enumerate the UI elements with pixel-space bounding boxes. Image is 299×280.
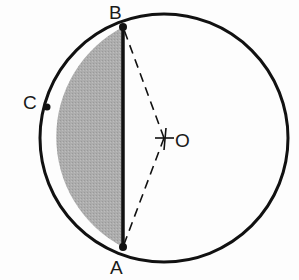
point-b [119, 23, 127, 31]
label-c: C [23, 92, 37, 113]
radius-ob [123, 27, 164, 138]
circle-segment-diagram: B A C O [0, 0, 299, 280]
point-c [44, 104, 51, 111]
radius-oa [123, 138, 164, 247]
label-a: A [110, 257, 123, 278]
center-mark-icon [155, 128, 174, 150]
label-o: O [175, 130, 190, 151]
point-a [119, 243, 127, 251]
label-b: B [109, 2, 122, 23]
diagram-canvas: B A C O [0, 0, 299, 280]
